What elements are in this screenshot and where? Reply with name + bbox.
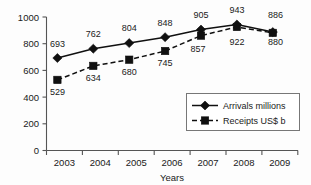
data-label-arrivals-2008: 943 [229, 5, 244, 15]
data-point-receipts-2006 [161, 47, 168, 54]
data-point-receipts-2009 [269, 29, 276, 36]
data-label-receipts-2008: 922 [229, 37, 244, 47]
data-label-receipts-2007: 857 [190, 44, 205, 54]
data-label-arrivals-2006: 848 [158, 18, 173, 28]
data-label-arrivals-2004: 762 [86, 29, 101, 39]
legend-marker-square-icon [201, 117, 208, 124]
x-axis-title: Years [160, 172, 184, 183]
y-tick-label-400: 400 [23, 92, 39, 103]
data-point-arrivals-2004 [89, 44, 98, 53]
legend: Arrivals millions Receipts US$ b [187, 94, 300, 131]
x-tick-label-2004: 2004 [90, 157, 111, 168]
x-tick-label-2009: 2009 [269, 157, 290, 168]
data-point-receipts-2008 [233, 23, 240, 30]
y-tick-label-200: 200 [23, 118, 39, 129]
data-label-receipts-2006: 745 [158, 58, 173, 68]
data-point-receipts-2005 [126, 56, 133, 63]
y-tick-label-600: 600 [23, 65, 39, 76]
chart-container: 0 200 400 600 800 1000 2003 2004 2005 20… [0, 0, 311, 185]
y-axis-tick-labels: 0 200 400 600 800 1000 [18, 12, 39, 157]
legend-label-receipts: Receipts US$ b [223, 116, 286, 126]
x-tick-label-2006: 2006 [162, 157, 183, 168]
data-labels-receipts: 529 634 680 745 857 922 880 [50, 37, 283, 97]
data-point-receipts-2007 [197, 32, 204, 39]
line-chart: 0 200 400 600 800 1000 2003 2004 2005 20… [0, 0, 311, 185]
data-label-arrivals-2005: 804 [122, 23, 137, 33]
data-label-receipts-2004: 634 [86, 73, 101, 83]
data-point-arrivals-2003 [53, 54, 62, 63]
x-axis-ticks [47, 151, 298, 156]
y-axis-ticks [43, 17, 47, 151]
data-label-receipts-2005: 680 [122, 67, 137, 77]
legend-item-arrivals[interactable]: Arrivals millions [192, 101, 286, 111]
x-tick-label-2005: 2005 [126, 157, 147, 168]
data-point-arrivals-2005 [125, 39, 134, 48]
y-tick-label-800: 800 [23, 38, 39, 49]
x-axis-tick-labels: 2003 2004 2005 2006 2007 2008 2009 [54, 157, 291, 168]
y-tick-label-1000: 1000 [18, 12, 39, 23]
data-label-receipts-2003: 529 [50, 87, 65, 97]
data-label-receipts-2009: 880 [268, 37, 283, 47]
data-label-arrivals-2009: 886 [268, 10, 283, 20]
x-tick-label-2007: 2007 [197, 157, 218, 168]
y-tick-label-0: 0 [34, 145, 39, 156]
data-point-receipts-2003 [54, 76, 61, 83]
data-label-arrivals-2003: 693 [50, 39, 65, 49]
legend-item-receipts[interactable]: Receipts US$ b [192, 116, 286, 126]
data-point-receipts-2004 [90, 62, 97, 69]
legend-label-arrivals: Arrivals millions [223, 101, 286, 111]
data-point-arrivals-2006 [161, 33, 170, 42]
x-tick-label-2008: 2008 [233, 157, 254, 168]
data-label-arrivals-2007: 905 [193, 10, 208, 20]
x-tick-label-2003: 2003 [54, 157, 75, 168]
